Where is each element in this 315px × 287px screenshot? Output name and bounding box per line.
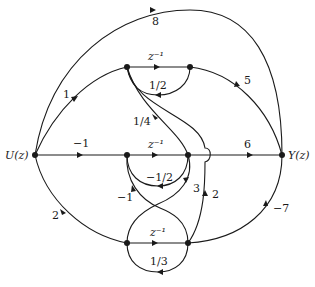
gain-label-quarter: 1/4 [133,115,151,128]
arrow-8 [150,7,156,13]
input-label: U(z) [5,149,29,162]
node-y [279,152,285,158]
gain-label-7: −7 [273,202,289,215]
gain-label-ba: 1/2 [149,79,167,92]
arrow-ue [60,209,66,215]
arrow-6 [247,152,253,158]
gain-label-1: 1 [63,88,70,101]
gain-label-fe: 1/3 [150,255,168,268]
arrow-ef [152,240,158,246]
node-a [124,64,130,70]
arrow-uc [77,152,83,158]
gain-label-ue: 2 [52,209,59,222]
arrow-ba [155,92,161,98]
arrow-7 [263,200,268,206]
edge-u-to-e-2 [35,155,127,243]
gain-label-ef: z⁻¹ [149,226,166,239]
node-u [32,152,38,158]
node-c [124,152,130,158]
signal-flow-graph: 8 1 z⁻¹ 1/2 5 1/4 2 −1 z⁻¹ −1/2 6 −1 3 2 [0,0,315,287]
gain-label-ab: z⁻¹ [147,50,164,63]
output-label: Y(z) [288,149,310,162]
edge-f-to-y-minus7 [188,155,282,243]
arrow-ab [154,64,160,70]
gain-label-2-up: 2 [212,188,219,201]
node-b [187,64,193,70]
gain-label-dc: −1/2 [146,171,173,184]
node-f [185,240,191,246]
gain-label-cd: z⁻¹ [147,138,164,151]
gain-label-uc: −1 [73,137,89,150]
node-e [124,240,130,246]
gain-label-6: 6 [244,138,251,151]
arrow-fe [157,269,163,275]
gain-label-fc: −1 [117,191,133,204]
gain-label-5: 5 [244,74,251,87]
arrow-3 [183,177,189,183]
gain-label-8: 8 [152,15,159,28]
gain-label-3: 3 [193,182,200,195]
arrow-2-up [202,190,208,196]
node-d [185,152,191,158]
arrow-cd [152,152,158,158]
